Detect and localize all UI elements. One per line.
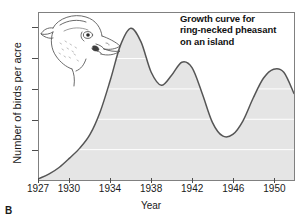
figure-panel-b: 12345 bbox=[0, 0, 302, 223]
x-tick-label-1930: 1930 bbox=[58, 184, 80, 194]
x-tick-mark-1946 bbox=[233, 178, 234, 183]
x-tick-label-1950: 1950 bbox=[263, 184, 285, 194]
x-tick-mark-1930 bbox=[69, 178, 70, 183]
chart-title-line-2: ring-necked pheasant bbox=[180, 24, 296, 35]
x-axis-label: Year bbox=[0, 200, 302, 211]
y-axis-label: Number of birds per acre bbox=[11, 28, 23, 178]
x-tick-mark-1950 bbox=[274, 178, 275, 183]
x-tick-label-1942: 1942 bbox=[181, 184, 203, 194]
x-tick-label-1946: 1946 bbox=[222, 184, 244, 194]
x-tick-mark-1934 bbox=[110, 178, 111, 183]
chart-title: Growth curve for ring-necked pheasant on… bbox=[180, 13, 296, 47]
chart-title-line-3: on an island bbox=[180, 36, 296, 47]
chart-title-line-1: Growth curve for bbox=[180, 13, 296, 24]
ring-necked-pheasant-head-illustration bbox=[40, 11, 122, 89]
panel-label: B bbox=[5, 205, 12, 216]
x-tick-label-1938: 1938 bbox=[140, 184, 162, 194]
x-tick-mark-1942 bbox=[192, 178, 193, 183]
x-tick-mark-1927 bbox=[38, 178, 39, 183]
x-tick-label-1934: 1934 bbox=[99, 184, 121, 194]
x-tick-mark-1938 bbox=[151, 178, 152, 183]
x-tick-label-1927: 1927 bbox=[27, 184, 49, 194]
